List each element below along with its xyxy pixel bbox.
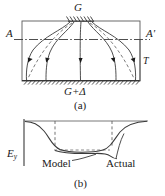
label-y-axis-subscript: y — [14, 152, 17, 161]
label-y-axis-symbol: E — [7, 147, 14, 159]
figure-container: G A A' T G+Δ (a) Ey Model Actual (b) — [0, 0, 165, 196]
label-y-axis: Ey — [7, 148, 17, 160]
label-top-gate: G — [74, 2, 82, 13]
actual-leader-line — [116, 134, 124, 159]
label-thickness-t: T — [143, 56, 149, 66]
label-curve-actual: Actual — [106, 158, 135, 169]
device-outline — [22, 21, 140, 81]
label-bottom-plane: G+Δ — [64, 86, 86, 97]
curve-actual — [25, 121, 147, 152]
model-leader-line — [72, 154, 96, 160]
field-direction-arrows — [28, 57, 136, 63]
label-section-a-prime: A' — [146, 28, 155, 39]
label-section-a: A — [6, 28, 13, 39]
field-lines — [26, 22, 135, 80]
caption-panel-a: (a) — [74, 100, 86, 111]
panel-a-drawing — [14, 17, 150, 85]
label-curve-model: Model — [42, 158, 71, 169]
idealized-field-dashed — [28, 23, 135, 80]
figure-drawing — [0, 0, 165, 196]
caption-panel-b: (b) — [74, 178, 87, 189]
